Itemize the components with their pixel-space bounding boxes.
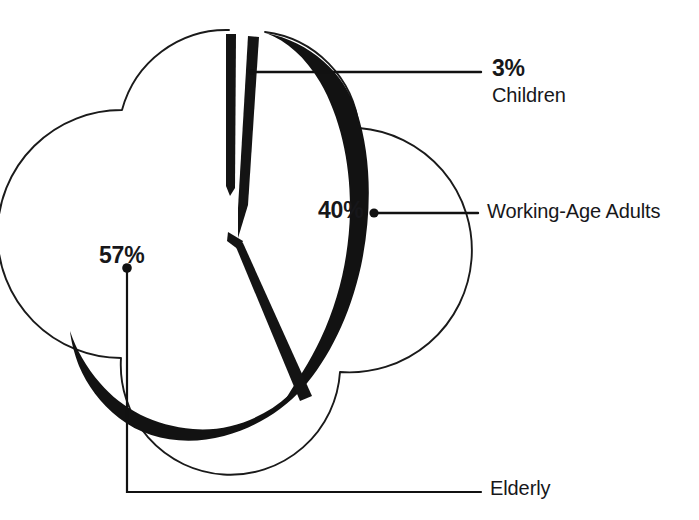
- slice-label-elderly-percent: 57%: [99, 243, 144, 269]
- slice-label-children-category: Children: [492, 84, 566, 106]
- callout-dot-adults: [369, 208, 378, 217]
- divider-elderly-children: [226, 34, 236, 196]
- callout-anchor-children: [249, 69, 255, 75]
- slice-label-children-percent: 3%: [492, 56, 525, 82]
- slice-label-working-age-adults-percent: 40%: [318, 198, 363, 224]
- pie-outline-group: [0, 30, 472, 475]
- slice-label-elderly-category: Elderly: [490, 477, 550, 499]
- slice-label-working-age-adults-category: Working-Age Adults: [487, 200, 660, 222]
- pie-circle-outline: [0, 30, 472, 475]
- pie-chart-figure: 3% Children 40% Working-Age Adults 57% E…: [0, 0, 699, 520]
